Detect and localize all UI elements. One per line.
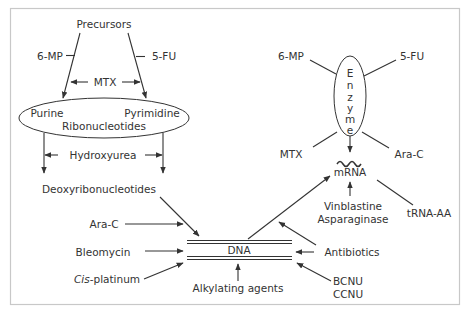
label-ribonucleotides: Ribonucleotides (62, 120, 146, 132)
label-alkylating-agents: Alkylating agents (193, 282, 284, 294)
label-bcnu: BCNU (333, 275, 363, 287)
label-cisplatinum: Cis-platinum (74, 273, 140, 285)
label-mtx-right: MTX (280, 148, 303, 160)
arrow-deoxy-to-dna (160, 197, 199, 236)
label-hydroxyurea: Hydroxyurea (69, 149, 136, 161)
label-enzyme-n: n (347, 79, 354, 91)
label-mtx-left: MTX (94, 76, 117, 88)
label-5fu-right: 5-FU (400, 50, 424, 62)
label-trna-aa: tRNA-AA (407, 207, 452, 219)
arrow-cisplatinum-to-dna (144, 263, 183, 279)
precursors-label: Precursors (76, 18, 131, 30)
line-trna-to-mrna (377, 180, 413, 205)
label-ara-c-right: Ara-C (394, 148, 423, 160)
line-5fu-to-enzyme (364, 60, 396, 76)
label-pyrimidine: Pyrimidine (124, 107, 180, 119)
label-vinblastine: Vinblastine (324, 200, 382, 212)
arrow-precursors-to-purine (63, 33, 80, 98)
label-ara-c-left: Ara-C (89, 218, 118, 230)
arrow-antibiotics-to-dna-mrna (279, 222, 316, 245)
line-6mp-to-enzyme (310, 60, 336, 74)
drug-target-diagram: Precursors 6-MP 5-FU MTX Purine Pyrimidi… (0, 0, 466, 315)
label-deoxyribonucleotides: Deoxyribonucleotides (42, 183, 156, 195)
label-bleomycin: Bleomycin (76, 246, 131, 258)
label-ccnu: CCNU (333, 288, 363, 300)
label-enzyme-e2: e (347, 124, 353, 136)
label-enzyme-e: E (347, 67, 354, 79)
arrow-precursors-to-pyrimidine (128, 33, 146, 98)
label-antibiotics: Antibiotics (324, 246, 379, 258)
label-mrna: mRNA (334, 166, 367, 178)
label-6mp-right: 6-MP (278, 50, 304, 62)
line-mtx-to-enzyme (313, 132, 337, 147)
label-purine: Purine (30, 107, 63, 119)
label-dna: DNA (227, 244, 251, 256)
line-ara-c-to-enzyme (362, 132, 389, 148)
label-asparaginase: Asparaginase (317, 213, 388, 225)
arrow-bcnu-to-dna (297, 263, 331, 281)
label-6mp-left: 6-MP (37, 50, 63, 62)
label-5fu-left: 5-FU (152, 50, 176, 62)
arrow-dna-to-mrna (248, 176, 330, 239)
